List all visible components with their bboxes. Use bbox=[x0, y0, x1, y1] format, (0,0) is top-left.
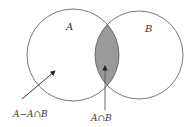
intersection-region bbox=[95, 11, 183, 99]
set-b-label: B bbox=[144, 23, 152, 34]
venn-diagram: A B A−A∩B A∩B bbox=[0, 0, 195, 127]
a-minus-intersection-label: A−A∩B bbox=[12, 109, 48, 119]
set-a-label: A bbox=[65, 21, 73, 32]
intersection-label: A∩B bbox=[90, 113, 112, 123]
